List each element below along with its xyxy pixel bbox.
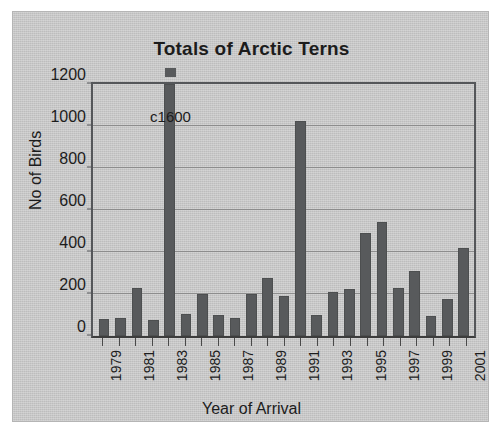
bar-slot	[292, 84, 308, 336]
bar-1984	[181, 314, 192, 336]
x-axis-tick-slot	[342, 338, 359, 346]
bar-1990	[279, 296, 290, 336]
bar-1985	[197, 294, 208, 336]
x-axis-tick-slot	[424, 338, 441, 346]
x-axis-label-slot	[144, 348, 161, 404]
x-axis-tick-mark	[135, 338, 136, 346]
x-axis-label-slot: 1999	[424, 348, 441, 404]
bar-1981	[132, 288, 143, 336]
x-axis-title: Year of Arrival	[13, 400, 490, 418]
x-axis-label-slot	[243, 348, 260, 404]
y-axis-tick-label: 400	[59, 234, 93, 252]
x-axis-tick-slot	[210, 338, 227, 346]
bar-1988	[246, 294, 257, 336]
x-axis-ticks	[91, 338, 476, 346]
x-axis-tick-mark	[449, 338, 450, 346]
bar-slot	[407, 84, 423, 336]
x-axis-label-slot: 1993	[325, 348, 342, 404]
y-axis-tick-label: 1200	[50, 66, 93, 84]
y-axis-tick-label: 600	[59, 192, 93, 210]
x-axis-tick-slot	[457, 338, 474, 346]
truncation-annotation: c1600	[150, 108, 191, 125]
x-axis-tick-mark	[333, 338, 334, 346]
chart-canvas: Totals of Arctic Terns No of Birds 02004…	[12, 11, 489, 422]
x-axis-label-slot: 2001	[457, 348, 474, 404]
x-axis-label-slot: 1997	[391, 348, 408, 404]
bar-truncation-stub	[165, 68, 176, 77]
bar-slot	[259, 84, 275, 336]
x-axis-tick-slot	[193, 338, 210, 346]
bar-1999	[426, 316, 437, 336]
x-axis-tick-slot	[358, 338, 375, 346]
bar-1979	[99, 319, 110, 336]
x-axis-tick-slot	[408, 338, 425, 346]
x-axis-tick-slot	[160, 338, 177, 346]
x-axis-tick-mark	[102, 338, 103, 346]
x-axis-tick-mark	[367, 338, 368, 346]
x-axis-label-slot	[375, 348, 392, 404]
bar-slot	[129, 84, 145, 336]
bar-slot	[374, 84, 390, 336]
x-axis-tick-slot	[259, 338, 276, 346]
x-axis-tick-slot	[226, 338, 243, 346]
plot-area: 020040060080010001200	[91, 82, 476, 338]
x-axis-label-slot	[276, 348, 293, 404]
bar-slot	[112, 84, 128, 336]
bar-1989	[262, 278, 273, 336]
bar-1995	[360, 233, 371, 336]
x-axis-tick-mark	[300, 338, 301, 346]
x-axis-label-slot	[210, 348, 227, 404]
y-axis-tick-label: 0	[77, 318, 93, 336]
x-axis-tick-mark	[201, 338, 202, 346]
x-axis-tick-slot	[127, 338, 144, 346]
bar-slot	[325, 84, 341, 336]
x-axis-label-slot: 1991	[292, 348, 309, 404]
bar-slot	[210, 84, 226, 336]
x-axis-tick-mark	[152, 338, 153, 346]
x-axis-tick-labels: 1979198119831985198719891991199319951997…	[91, 348, 476, 404]
x-axis-tick-mark	[383, 338, 384, 346]
x-axis-tick-slot	[292, 338, 309, 346]
y-axis-title: No of Birds	[27, 131, 45, 210]
bar-1986	[213, 315, 224, 336]
bar-slot	[227, 84, 243, 336]
x-axis-tick-mark	[350, 338, 351, 346]
x-axis-label-slot: 1995	[358, 348, 375, 404]
x-axis-tick-slot	[94, 338, 111, 346]
x-axis-label-slot: 1981	[127, 348, 144, 404]
y-axis-tick-label: 800	[59, 150, 93, 168]
x-axis-tick-slot	[309, 338, 326, 346]
bar-slot	[423, 84, 439, 336]
x-axis-label-slot	[111, 348, 128, 404]
bar-slot	[390, 84, 406, 336]
bar-1994	[344, 289, 355, 336]
x-axis-tick-mark	[433, 338, 434, 346]
bar-1987	[230, 318, 241, 336]
bar-slot	[194, 84, 210, 336]
bar-slot	[243, 84, 259, 336]
x-axis-tick-mark	[119, 338, 120, 346]
x-axis-tick-slot	[391, 338, 408, 346]
bar-slot	[341, 84, 357, 336]
y-axis-tick-label: 1000	[50, 108, 93, 126]
bar-2001	[458, 248, 469, 336]
bar-2000	[442, 299, 453, 336]
x-axis-tick-mark	[400, 338, 401, 346]
x-axis-tick-slot	[111, 338, 128, 346]
x-axis-label-slot: 1983	[160, 348, 177, 404]
bar-1991	[295, 121, 306, 336]
bar-1998	[409, 271, 420, 336]
x-axis-tick-label-2001: 2001	[472, 350, 488, 381]
x-axis-label-slot	[342, 348, 359, 404]
bar-slot	[456, 84, 472, 336]
chart-screenshot: Totals of Arctic Terns No of Birds 02004…	[0, 0, 501, 434]
bar-1993	[328, 292, 339, 336]
x-axis-tick-mark	[317, 338, 318, 346]
bar-1980	[115, 318, 126, 336]
bar-slot	[308, 84, 324, 336]
bar-slot	[276, 84, 292, 336]
x-axis-tick-mark	[416, 338, 417, 346]
x-axis-tick-mark	[251, 338, 252, 346]
x-axis-tick-mark	[284, 338, 285, 346]
x-axis-tick-slot	[144, 338, 161, 346]
